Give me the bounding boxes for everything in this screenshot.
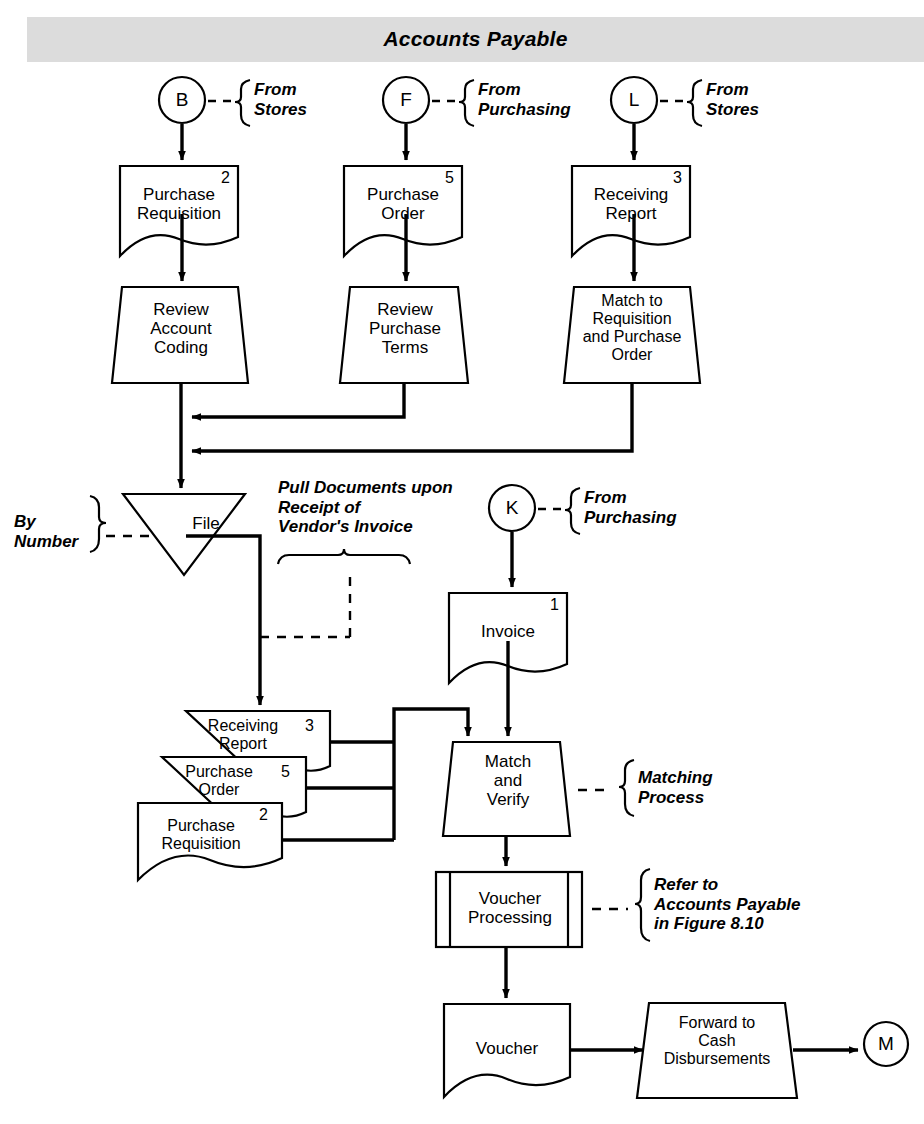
doc-receiving-report-top-label: Receiving Report: [570, 185, 692, 223]
brace-matching-process: [619, 760, 634, 816]
process-review-purchase-terms-label: Review Purchase Terms: [342, 300, 468, 357]
connector-m-label: M: [866, 1033, 906, 1055]
process-match-and-verify-label: Match and Verify: [448, 752, 568, 809]
brace-k: [565, 488, 580, 534]
brace-pull-documents: [278, 549, 410, 564]
doc-purchase-order-top-label: Purchase Order: [342, 185, 464, 223]
doc-purchase-requisition-top-label: Purchase Requisition: [118, 185, 240, 223]
brace-by-number: [90, 496, 106, 552]
process-review-account-coding-label: Review Account Coding: [118, 300, 244, 357]
connector-k-note: From Purchasing: [584, 488, 724, 527]
connector-b-label: B: [162, 89, 202, 111]
flow-terms-join: [192, 383, 404, 417]
connector-l-label: L: [614, 89, 654, 111]
doc-voucher-label: Voucher: [444, 1039, 570, 1058]
flowchart-figure: Accounts Payable B F L K M From Stores F…: [0, 0, 924, 1124]
annotation-pull-documents: Pull Documents upon Receipt of Vendor's …: [278, 478, 492, 537]
annotation-refer-to-ap: Refer to Accounts Payable in Figure 8.10: [654, 875, 874, 934]
connector-f-label: F: [386, 89, 426, 111]
doc-purchase-requisition-top-copy: 2: [221, 169, 237, 187]
flowchart-canvas: [0, 0, 924, 1124]
file-label: File: [160, 514, 252, 533]
process-match-to-requisition-label: Match to Requisition and Purchase Order: [563, 292, 701, 364]
doc-receiving-report-stack-label: Receiving Report: [184, 717, 302, 753]
connector-l-note: From Stores: [706, 80, 816, 119]
process-voucher-processing-label: Voucher Processing: [452, 889, 568, 927]
section-band-title: Accounts Payable: [27, 27, 924, 51]
brace-l: [687, 80, 702, 126]
doc-purchase-order-stack-label: Purchase Order: [160, 763, 278, 799]
file-sort-note: By Number: [14, 512, 92, 551]
annotation-matching-process: Matching Process: [638, 768, 808, 807]
doc-receiving-report-top-copy: 3: [673, 169, 689, 187]
connector-f-note: From Purchasing: [478, 80, 608, 119]
flow-file-out: [186, 536, 260, 705]
brace-refer-to-ap: [635, 869, 650, 941]
connector-k-label: K: [492, 497, 532, 519]
brace-b: [235, 80, 250, 126]
doc-invoice-copy: 1: [550, 596, 566, 614]
process-forward-to-cash-label: Forward to Cash Disbursements: [636, 1014, 798, 1068]
doc-purchase-order-top-copy: 5: [445, 169, 461, 187]
doc-purchase-requisition-stack-label: Purchase Requisition: [136, 817, 266, 853]
doc-invoice-label: Invoice: [447, 622, 569, 641]
brace-f: [459, 80, 474, 126]
doc-purchase-order-stack-copy: 5: [281, 763, 297, 781]
doc-purchase-requisition-stack-copy: 2: [259, 806, 275, 824]
doc-receiving-report-stack-copy: 3: [305, 717, 321, 735]
connector-b-note: From Stores: [254, 80, 364, 119]
